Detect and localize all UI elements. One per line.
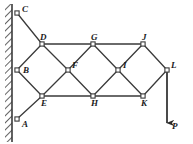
joint-label-c: C — [22, 5, 28, 14]
joint-label-l: L — [171, 61, 177, 70]
joint-a — [15, 117, 19, 121]
truss-member-hi — [93, 70, 118, 96]
joint-label-e: E — [41, 99, 47, 108]
joint-label-f: F — [72, 61, 78, 70]
joint-l — [165, 68, 169, 72]
truss-member-be — [17, 70, 42, 96]
joint-label-k: K — [141, 99, 147, 108]
truss-member-jl — [143, 44, 167, 70]
wall-hatching — [5, 4, 12, 142]
joint-b — [15, 68, 19, 72]
truss-member-gi — [93, 44, 118, 70]
joint-i — [116, 68, 120, 72]
joint-j — [141, 42, 145, 46]
truss-member-df — [42, 44, 68, 70]
joint-label-h: H — [91, 99, 98, 108]
truss-member-bd — [17, 44, 42, 70]
joint-label-j: J — [142, 33, 147, 42]
fixed-wall — [5, 4, 12, 142]
joint-label-d: D — [40, 33, 47, 42]
joint-g — [91, 42, 95, 46]
joint-c — [15, 11, 19, 15]
truss-member-kl — [143, 70, 167, 96]
joint-label-i: I — [123, 61, 127, 70]
truss-member-ik — [118, 70, 143, 96]
joint-label-b: B — [23, 66, 29, 75]
truss-member-cd — [17, 13, 42, 44]
truss-figure: ABCDEFGHIJKLP — [0, 0, 193, 144]
joint-label-g: G — [91, 33, 98, 42]
truss-member-fh — [68, 70, 93, 96]
truss-member-ae — [17, 96, 42, 119]
truss-member-ij — [118, 44, 143, 70]
truss-member-ef — [42, 70, 68, 96]
joint-f — [66, 68, 70, 72]
joint-d — [40, 42, 44, 46]
joint-label-a: A — [22, 120, 28, 129]
load-label-p: P — [172, 122, 178, 131]
